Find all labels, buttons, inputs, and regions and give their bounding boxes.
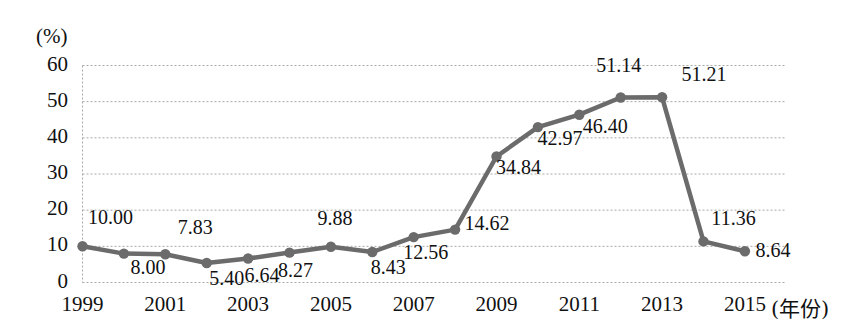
data-point-label: 7.83 [178, 216, 213, 239]
line-chart: (%) 0102030405060 1999200120032005200720… [0, 0, 865, 336]
data-point-marker [698, 236, 708, 246]
x-tick-label: 2001 [144, 292, 186, 317]
data-point-marker [326, 242, 336, 252]
data-point-label: 11.36 [711, 207, 755, 230]
x-tick-label: 1999 [62, 292, 104, 317]
y-tick-label: 10 [26, 232, 68, 257]
data-point-marker [616, 92, 626, 102]
data-point-marker [657, 92, 667, 102]
x-tick-label: 2015 [724, 292, 766, 317]
x-tick-label: 2011 [559, 292, 600, 317]
data-point-marker [284, 247, 294, 257]
x-tick-label: 2005 [310, 292, 352, 317]
data-point-marker [243, 253, 253, 263]
x-tick-label: 2003 [227, 292, 269, 317]
data-point-label: 46.40 [583, 115, 628, 138]
data-point-marker [77, 241, 87, 251]
y-tick-label: 20 [26, 196, 68, 221]
data-point-marker [740, 246, 750, 256]
data-point-label: 51.14 [596, 54, 641, 77]
x-tick-label: 2007 [393, 292, 435, 317]
data-point-label: 6.64 [245, 264, 280, 287]
y-tick-label: 50 [26, 88, 68, 113]
y-tick-label: 60 [26, 52, 68, 77]
data-point-label: 8.27 [278, 259, 313, 282]
data-point-label: 34.84 [496, 156, 541, 179]
plot-area [0, 0, 865, 336]
y-tick-label: 40 [26, 124, 68, 149]
data-point-marker [450, 224, 460, 234]
data-point-label: 8.64 [755, 239, 790, 262]
data-point-label: 10.00 [88, 206, 133, 229]
data-point-label: 12.56 [403, 241, 448, 264]
data-point-label: 8.00 [130, 256, 165, 279]
y-tick-label: 0 [26, 269, 68, 294]
data-point-marker [119, 248, 129, 258]
data-point-label: 8.43 [371, 256, 406, 279]
data-point-label: 42.97 [537, 127, 582, 150]
data-point-label: 14.62 [465, 212, 510, 235]
y-tick-label: 30 [26, 160, 68, 185]
x-axis-title: (年份) [771, 292, 829, 322]
x-tick-label: 2013 [641, 292, 683, 317]
data-point-label: 5.40 [209, 267, 244, 290]
data-point-label: 9.88 [317, 207, 352, 230]
x-tick-label: 2009 [476, 292, 518, 317]
data-point-label: 51.21 [682, 63, 727, 86]
